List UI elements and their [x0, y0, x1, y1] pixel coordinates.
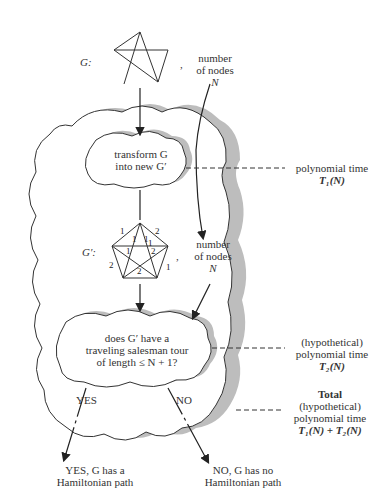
step1-time: polynomial time T₁(N): [286, 162, 378, 186]
step1-time-expr: T₁(N): [286, 174, 378, 186]
input-nodes-var: N: [190, 76, 240, 88]
yes-result-line1: YES, G has a: [40, 464, 150, 476]
step2-time-line1: (hypothetical): [286, 336, 378, 348]
no-result-line2: Hamiltonian path: [188, 476, 298, 488]
no-result-line1: NO, G has no: [188, 464, 298, 476]
no-result: NO, G has no Hamiltonian path: [188, 464, 298, 488]
total-title: Total: [282, 388, 378, 400]
input-nodes-line1: number: [190, 52, 240, 64]
input-graph-g-icon: [114, 32, 168, 84]
yes-result: YES, G has a Hamiltonian path: [40, 464, 150, 488]
edge-weight: 1: [132, 234, 137, 244]
edge-weight: 1: [120, 226, 125, 236]
edge-weight: 1: [166, 262, 171, 272]
gprime-comma: ,: [176, 250, 179, 262]
step2-time-line2: polynomial time: [286, 348, 378, 360]
step2-time: (hypothetical) polynomial time T₂(N): [286, 336, 378, 372]
step1-line1: transform G: [96, 148, 186, 160]
gprime-nodes-line1: number: [188, 238, 238, 250]
total-line2: polynomial time: [282, 412, 378, 424]
input-nodes-label: number of nodes N: [190, 52, 240, 88]
input-nodes-line2: of nodes: [190, 64, 240, 76]
edge-weight: 2: [151, 246, 156, 256]
step2-text: does G′ have a traveling salesman tour o…: [64, 332, 210, 368]
gprime-nodes-label: number of nodes N: [188, 238, 238, 274]
total-expr: T₁(N) + T₂(N): [282, 424, 378, 436]
step1-text: transform G into new G′: [96, 148, 186, 172]
gprime-label: G′:: [82, 246, 96, 258]
total-time: Total (hypothetical) polynomial time T₁(…: [282, 388, 378, 436]
yes-label: YES: [76, 394, 97, 406]
step1-time-label: polynomial time: [286, 162, 378, 174]
input-comma: ,: [180, 58, 183, 70]
edge-weight: 1: [126, 246, 131, 256]
step2-line3: of length ≤ N + 1?: [64, 356, 210, 368]
total-line1: (hypothetical): [282, 400, 378, 412]
gprime-nodes-var: N: [188, 262, 238, 274]
step2-line1: does G′ have a: [64, 332, 210, 344]
yes-result-line2: Hamiltonian path: [40, 476, 150, 488]
edge-weight: 2: [155, 226, 160, 236]
edge-weight: 2: [109, 260, 114, 270]
step2-time-expr: T₂(N): [286, 360, 378, 372]
edge-weight: 2: [137, 266, 142, 276]
gprime-nodes-line2: of nodes: [188, 250, 238, 262]
no-label: NO: [176, 394, 192, 406]
step1-line2: into new G′: [96, 160, 186, 172]
input-graph-label: G:: [80, 56, 92, 68]
step2-line2: traveling salesman tour: [64, 344, 210, 356]
